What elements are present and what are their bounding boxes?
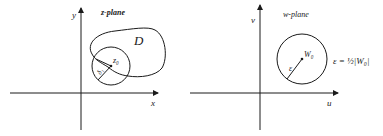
w0-label: W₀ (304, 50, 314, 59)
z0-label: z₀ (112, 56, 119, 65)
z-plane-title: z-plane (100, 8, 125, 17)
delta1-label: δ₁ (95, 67, 105, 76)
region-d-label: D (133, 33, 144, 48)
z-plane-panel: y x z-plane D z₀ δ₁ (10, 8, 165, 130)
w-plane-panel: v u w-plane W₀ ε ε = ½|W₀| (190, 5, 369, 130)
x-axis-label: x (150, 98, 155, 108)
v-axis-label: v (251, 15, 255, 25)
conformal-mapping-diagram: y x z-plane D z₀ δ₁ v u w-plane W₀ ε ε =… (0, 0, 383, 136)
w-plane-title: w-plane (283, 10, 309, 19)
epsilon-equation: ε = ½|W₀| (333, 56, 369, 66)
y-axis-label: y (71, 10, 76, 20)
radius-line-z-2 (96, 59, 111, 66)
u-axis-label: u (327, 98, 332, 108)
